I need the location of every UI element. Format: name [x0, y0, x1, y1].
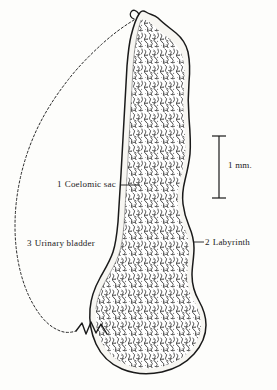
label-urinary-bladder-text: Urinary bladder — [35, 238, 95, 248]
label-labyrinth-text: Labyrinth — [213, 237, 250, 247]
label-coelomic-sac-number: 1 — [57, 179, 62, 189]
scale-bar — [212, 136, 226, 198]
label-coelomic-sac: 1Coelomic sac — [57, 180, 116, 189]
label-urinary-bladder-number: 3 — [27, 238, 32, 248]
figure-plate: 1Coelomic sac 3Urinary bladder 2Labyrint… — [0, 0, 277, 390]
label-urinary-bladder: 3Urinary bladder — [27, 239, 95, 248]
label-labyrinth: 2Labyrinth — [205, 238, 250, 247]
scale-bar-label: 1 mm. — [228, 161, 252, 170]
label-labyrinth-number: 2 — [205, 237, 210, 247]
anatomical-drawing — [0, 0, 277, 390]
label-coelomic-sac-text: Coelomic sac — [65, 179, 116, 189]
